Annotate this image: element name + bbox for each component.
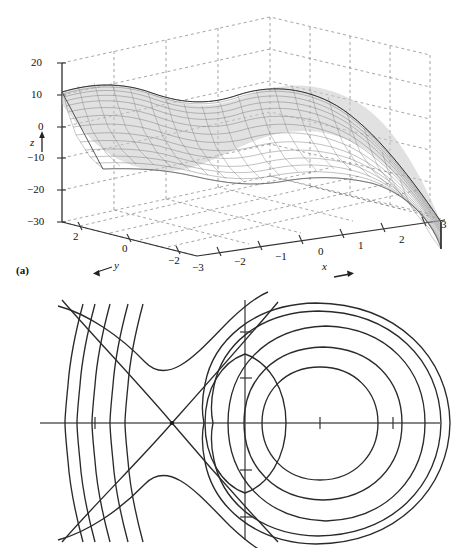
x-tick-neg2: −2	[234, 255, 246, 267]
contour-plot-panel: y x 2 1 −1 −2 −2 −1 0 1 2 c = 2 c = 1 c …	[0, 290, 458, 554]
z-tick-0: 0	[38, 120, 44, 132]
z-tick-neg30: −30	[27, 215, 44, 227]
x-axis-label: x	[322, 260, 327, 272]
x-tick-3: 3	[441, 218, 447, 230]
z-axis	[57, 63, 66, 222]
z-tick-neg10: −10	[27, 151, 44, 163]
z-tick-10: 10	[31, 88, 42, 100]
saddle-point-marker	[170, 421, 174, 425]
x-tick-2: 2	[399, 233, 405, 245]
y-arrow-icon	[93, 267, 112, 277]
x-tick-1: 1	[358, 239, 364, 251]
contour-c-neg4-lower	[58, 475, 268, 554]
panel-a-caption: (a)	[16, 264, 29, 276]
z-axis-label: z	[30, 136, 34, 148]
surface-plot-svg	[0, 0, 458, 290]
surface-plot-panel: 20 10 0 −10 −20 −30 z 2 0 −2 y −3 −2 −1 …	[0, 0, 458, 290]
figure-container: 20 10 0 −10 −20 −30 z 2 0 −2 y −3 −2 −1 …	[0, 0, 458, 554]
contour-axes	[40, 300, 440, 540]
y-tick-0: 0	[122, 242, 128, 254]
y-axis-label: y	[114, 259, 119, 271]
contour-plot-svg	[0, 290, 458, 554]
y-tick-2: 2	[73, 230, 79, 242]
y-axis	[62, 222, 197, 256]
x-tick-neg1: −1	[275, 250, 287, 262]
x-arrow-icon	[334, 271, 354, 278]
z-tick-neg20: −20	[27, 183, 44, 195]
x-tick-0: 0	[318, 245, 324, 257]
z-arrow-icon	[39, 131, 45, 152]
x-tick-neg3: −3	[192, 261, 204, 273]
y-tick-neg2: −2	[168, 254, 180, 266]
z-tick-20: 20	[31, 56, 42, 68]
